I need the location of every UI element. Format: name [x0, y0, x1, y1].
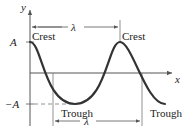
- trough-label-right: Trough: [150, 107, 182, 119]
- wave-diagram: y x A −A λ λ Crest Crest Trough Trough: [0, 0, 191, 132]
- crest-label-left: Crest: [32, 30, 55, 42]
- amplitude-label-positive: A: [9, 36, 17, 48]
- amplitude-label-negative: −A: [5, 98, 19, 110]
- y-axis-label: y: [20, 1, 26, 13]
- x-axis-label: x: [174, 73, 180, 85]
- crest-label-right: Crest: [122, 30, 145, 42]
- trough-label-left: Trough: [61, 107, 93, 119]
- wavelength-label-top: λ: [70, 21, 76, 33]
